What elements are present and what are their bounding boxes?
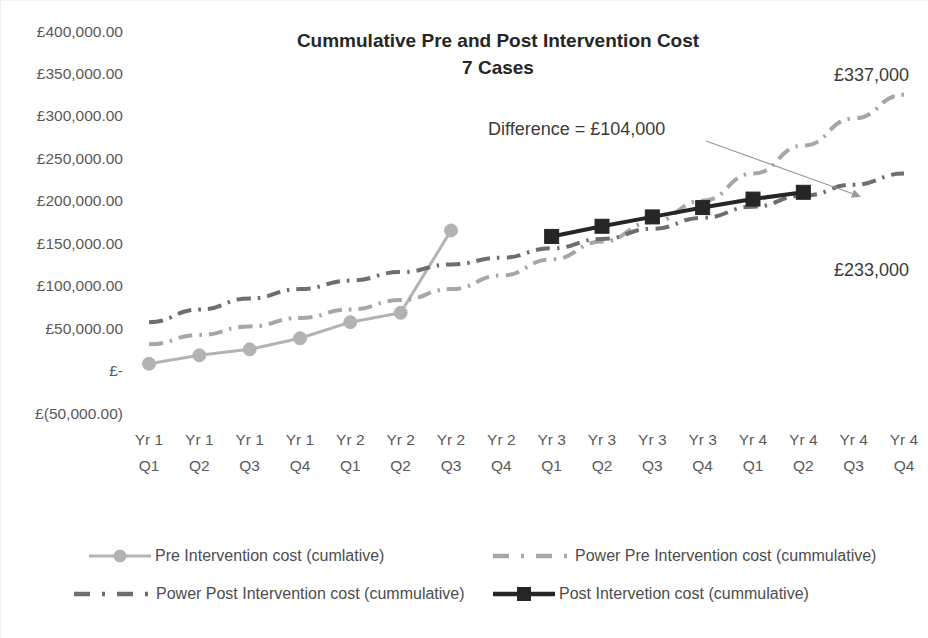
x-axis-year-label: Yr 1 (135, 431, 163, 448)
y-axis-tick-label: £150,000.00 (37, 235, 124, 252)
x-axis-quarter-label: Q3 (441, 457, 462, 474)
x-axis-year-label: Yr 1 (235, 431, 263, 448)
y-axis-tick-label: £- (109, 362, 123, 379)
annotation-text: Difference = £104,000 (488, 119, 665, 139)
x-axis-quarter-label: Q4 (894, 457, 915, 474)
x-axis-quarter-label: Q3 (239, 457, 260, 474)
y-axis-tick-label: £50,000.00 (45, 320, 123, 337)
x-axis-year-label: Yr 2 (487, 431, 515, 448)
x-axis-year-label: Yr 3 (537, 431, 565, 448)
legend-square-marker (517, 587, 531, 601)
y-axis-tick-label: £400,000.00 (37, 23, 124, 40)
data-point-marker (344, 316, 357, 329)
x-axis-year-label: Yr 2 (386, 431, 414, 448)
y-axis-tick-label: £350,000.00 (37, 65, 124, 82)
x-axis-year-label: Yr 3 (588, 431, 616, 448)
x-axis-year-label: Yr 2 (437, 431, 465, 448)
legend-label: Post Intervetion cost (cummulative) (559, 585, 809, 602)
x-axis-quarter-label: Q1 (340, 457, 361, 474)
y-axis-tick-label: £300,000.00 (37, 107, 124, 124)
data-point-marker (746, 192, 760, 206)
x-axis-quarter-label: Q3 (843, 457, 864, 474)
x-axis-quarter-label: Q1 (139, 457, 160, 474)
data-point-marker (445, 224, 458, 237)
data-point-marker (394, 306, 407, 319)
legend-circle-marker (114, 550, 127, 563)
annotation-text: £233,000 (834, 260, 909, 280)
x-axis-year-label: Yr 1 (185, 431, 213, 448)
x-axis-year-label: Yr 1 (286, 431, 314, 448)
data-point-marker (545, 229, 559, 243)
x-axis-quarter-label: Q2 (592, 457, 613, 474)
x-axis-quarter-label: Q3 (642, 457, 663, 474)
y-axis-tick-label: £200,000.00 (37, 192, 124, 209)
legend-label: Power Pre Intervention cost (cummulative… (575, 547, 876, 564)
x-axis-quarter-label: Q4 (290, 457, 311, 474)
x-axis-quarter-label: Q2 (793, 457, 814, 474)
y-axis-tick-label: £100,000.00 (37, 277, 124, 294)
x-axis-year-label: Yr 3 (688, 431, 716, 448)
y-axis-tick-label: £250,000.00 (37, 150, 124, 167)
x-axis-quarter-label: Q2 (189, 457, 210, 474)
chart-container: Cummulative Pre and Post Intervention Co… (0, 0, 928, 638)
x-axis-quarter-label: Q2 (390, 457, 411, 474)
data-point-marker (193, 349, 206, 362)
x-axis-year-label: Yr 2 (336, 431, 364, 448)
x-axis-year-label: Yr 4 (839, 431, 868, 448)
data-point-marker (696, 201, 710, 215)
x-axis-quarter-label: Q1 (541, 457, 562, 474)
power-post-endpoint-label: £233,000 (834, 260, 909, 280)
x-axis-year-label: Yr 4 (890, 431, 919, 448)
x-axis-quarter-label: Q4 (491, 457, 512, 474)
annotation-text: £337,000 (834, 65, 909, 85)
data-point-marker (143, 357, 156, 370)
data-point-marker (796, 185, 810, 199)
y-axis-tick-label: £(50,000.00) (35, 405, 123, 422)
legend-label: Pre Intervention cost (cumlative) (155, 547, 384, 564)
legend-label: Power Post Intervention cost (cummulativ… (156, 585, 465, 602)
x-axis-year-label: Yr 4 (739, 431, 768, 448)
data-point-marker (243, 343, 256, 356)
x-axis-quarter-label: Q1 (743, 457, 764, 474)
cost-line-chart: Cummulative Pre and Post Intervention Co… (1, 1, 928, 638)
plot-area-background (1, 1, 928, 638)
data-point-marker (595, 219, 609, 233)
chart-title: Cummulative Pre and Post Intervention Co… (297, 30, 700, 51)
x-axis-year-label: Yr 3 (638, 431, 666, 448)
power-pre-endpoint-label: £337,000 (834, 65, 909, 85)
data-point-marker (645, 210, 659, 224)
x-axis-year-label: Yr 4 (789, 431, 818, 448)
data-point-marker (294, 332, 307, 345)
chart-subtitle: 7 Cases (462, 57, 534, 78)
x-axis-quarter-label: Q4 (692, 457, 713, 474)
